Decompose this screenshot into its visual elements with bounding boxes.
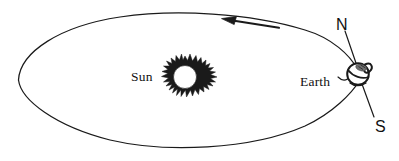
sun-label: Sun bbox=[131, 70, 153, 84]
south-pole-label: S bbox=[375, 119, 386, 135]
arrow-head bbox=[222, 16, 237, 24]
orbit-diagram: Sun Earth N S bbox=[0, 0, 399, 161]
axis-north-segment bbox=[345, 31, 357, 66]
sun-icon bbox=[162, 54, 218, 97]
earth-globe-icon bbox=[347, 63, 372, 85]
earth-label-leader bbox=[338, 77, 348, 80]
north-pole-label: N bbox=[336, 17, 348, 33]
sun-core bbox=[174, 66, 197, 89]
axis-south-segment bbox=[362, 84, 374, 117]
earth-label: Earth bbox=[300, 75, 330, 89]
